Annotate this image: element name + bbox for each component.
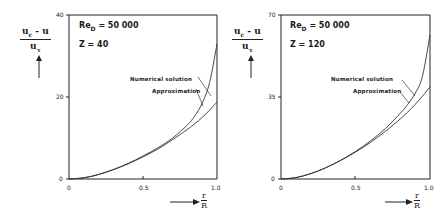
numerical-solution-curve	[69, 44, 217, 179]
approximation-curve	[281, 87, 430, 179]
y-tick-max: 40	[56, 11, 64, 18]
approximation-label: Approximation	[152, 88, 200, 94]
x-arrow-head	[406, 199, 413, 205]
y-arrow-head	[248, 55, 254, 61]
numerical-solution-curve	[281, 35, 430, 179]
reynolds-annotation: ReD = 50 000	[290, 21, 349, 32]
numerical-leader-line	[402, 80, 415, 96]
x-tick-0: 0	[67, 184, 71, 191]
approximation-curve	[69, 102, 217, 179]
numerical-solution-label: Numerical solution	[130, 76, 192, 82]
reynolds-annotation: ReD = 50 000	[79, 21, 138, 32]
y-tick-mid: 20	[56, 93, 64, 100]
y-axis-label: uc - u uτ	[232, 26, 263, 53]
y-tick-0: 0	[271, 175, 275, 182]
z-annotation: Z = 120	[290, 40, 325, 49]
x-tick-mid: 0.5	[351, 184, 361, 191]
y-axis-label: uc - u uτ	[20, 26, 51, 53]
y-tick-max: 70	[268, 11, 276, 18]
x-tick-max: 1.0	[424, 184, 434, 191]
y-tick-mid: 35	[268, 93, 276, 100]
chart-panel-z40: uc - u uτ ReD = 50 000 Z = 40 Numerical …	[0, 0, 224, 221]
z-annotation: Z = 40	[79, 40, 108, 49]
approximation-label: Approximation	[353, 88, 401, 94]
x-arrow-head	[193, 199, 200, 205]
chart-panel-z120: uc - u uτ ReD = 50 000 Z = 120 Numerical…	[224, 0, 448, 221]
x-tick-max: 1.0	[211, 184, 221, 191]
x-axis-label: r R	[414, 191, 420, 210]
x-axis-label: r R	[201, 191, 207, 210]
x-tick-mid: 0.5	[139, 184, 149, 191]
y-arrow-head	[36, 55, 42, 61]
x-tick-0: 0	[279, 184, 283, 191]
approx-leader-line	[400, 92, 409, 103]
numerical-solution-label: Numerical solution	[331, 76, 393, 82]
y-tick-0: 0	[59, 175, 63, 182]
